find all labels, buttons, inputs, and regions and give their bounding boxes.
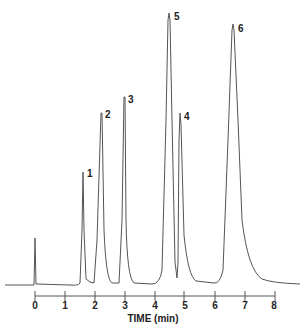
- x-tick-label: 7: [242, 301, 248, 311]
- x-tick-label: 2: [92, 301, 98, 311]
- chromatogram-trace: [5, 13, 300, 285]
- x-tick-label: 3: [122, 301, 128, 311]
- peak-label-4: 4: [184, 112, 190, 122]
- peak-label-6: 6: [238, 24, 244, 34]
- x-tick-label: 4: [152, 301, 158, 311]
- peak-label-5: 5: [174, 12, 180, 22]
- x-axis-title: TIME (min): [127, 313, 178, 324]
- x-tick-label: 0: [32, 301, 38, 311]
- peak-label-3: 3: [128, 95, 134, 105]
- peak-label-1: 1: [87, 169, 93, 179]
- x-tick-label: 8: [271, 301, 277, 311]
- peak-label-2: 2: [105, 110, 111, 120]
- chromatogram-plot: [0, 0, 307, 329]
- x-tick-label: 1: [62, 301, 68, 311]
- x-tick-label: 5: [182, 301, 188, 311]
- x-tick-label: 6: [212, 301, 218, 311]
